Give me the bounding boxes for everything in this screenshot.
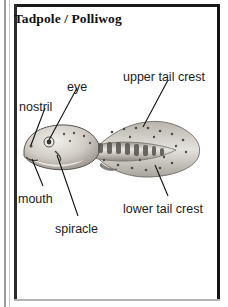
label-mouth: mouth: [18, 193, 53, 206]
plate-border-top: [14, 4, 220, 7]
label-spiracle: spiracle: [55, 223, 98, 236]
page-edge-rule: [4, 0, 6, 307]
plate-border-bottom: [14, 299, 220, 301]
page-title: Tadpole / Polliwog: [14, 11, 122, 27]
page-edge-rule-secondary: [9, 0, 10, 307]
label-lower-tail-crest: lower tail crest: [123, 203, 203, 216]
plate-border-left: [14, 4, 17, 301]
label-eye: eye: [67, 81, 87, 94]
figure-plate: [14, 4, 220, 301]
label-upper-tail-crest: upper tail crest: [123, 71, 205, 84]
tadpole-diagram-page: Tadpole / Polliwog: [0, 0, 228, 307]
plate-border-right: [217, 4, 220, 301]
label-nostril: nostril: [19, 101, 52, 114]
